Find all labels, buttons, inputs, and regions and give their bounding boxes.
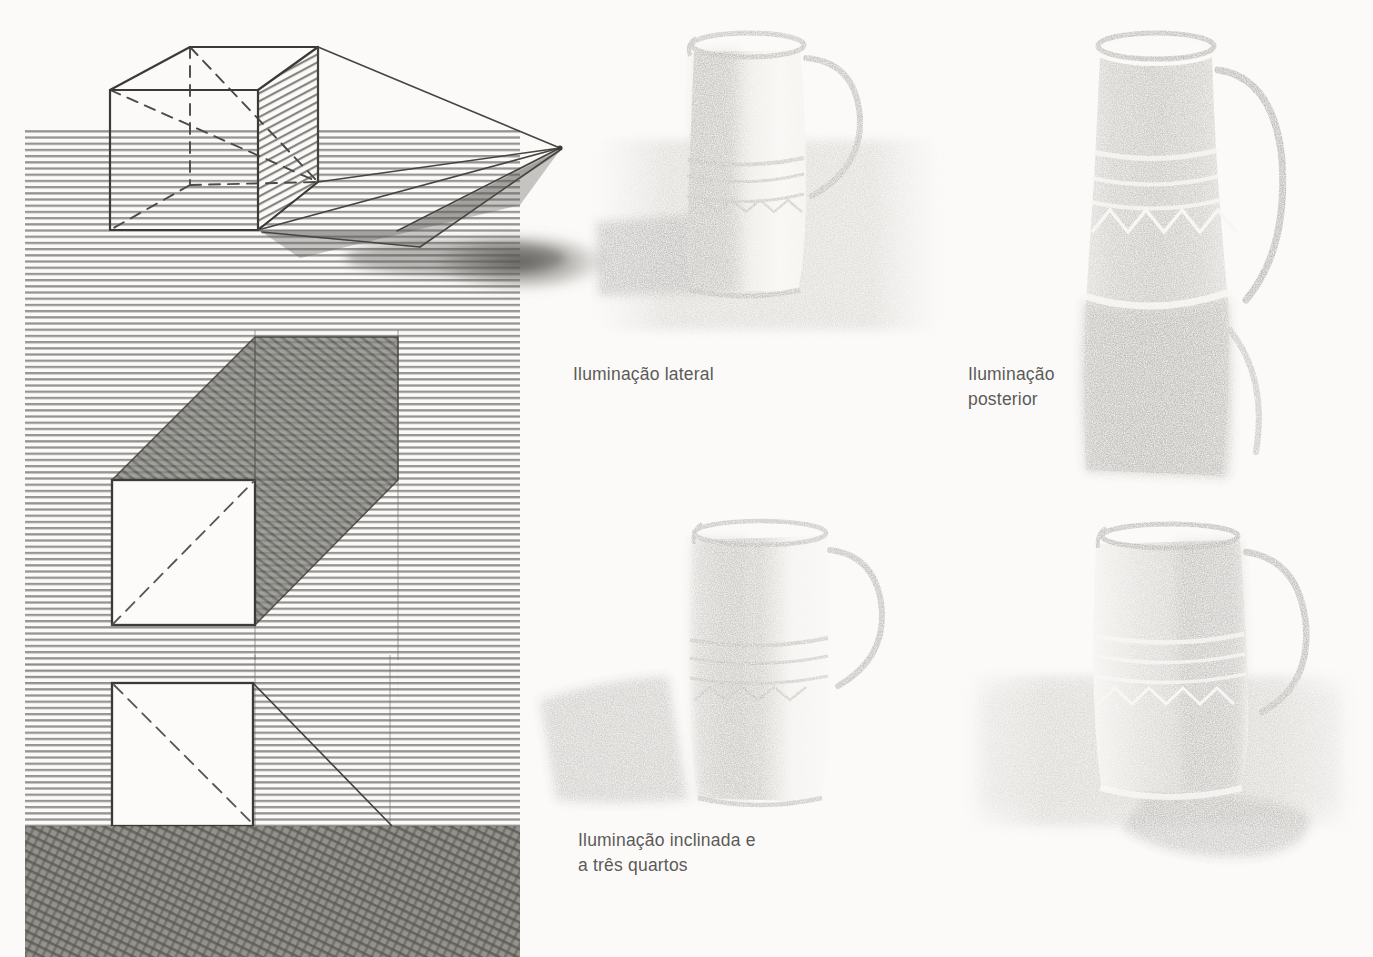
white-square-middle [112,480,255,625]
artwork-layer [0,0,1373,957]
jug-decor-band-posterior [1090,150,1221,209]
parallelogram-inner-edge [255,337,398,480]
jug-rim-lateral [692,33,804,57]
ground-hatch-middle [25,323,520,683]
cast-shadow-fourth [1122,790,1309,857]
pitcher-fourth [968,524,1350,857]
white-square-lower [112,683,253,826]
jug-body-inclinada [689,536,830,802]
construction-lines-lower [255,655,390,830]
jug-spout-lateral [689,38,696,56]
table-surface-fourth [968,676,1350,826]
table-surface-fourth-tone [980,690,1340,810]
drawing-page: Iluminação lateral Iluminação posterior … [0,0,1373,957]
jug-decor-band-inclinada [690,638,828,700]
jug-value-break-posterior [1084,292,1230,306]
jug-base-inclinada [698,798,822,805]
diagram-square-on-dark-ground [25,655,520,957]
caption-iluminacao-lateral: Iluminação lateral [573,362,714,387]
cube-cast-shadow-body [262,150,560,258]
jug-handle-inclinada [830,550,882,686]
pencil-smudge [432,232,608,292]
jug-dark-mass-posterior [1081,298,1232,478]
jug-body-fourth [1093,540,1248,794]
jug-handle-lower-posterior [1230,330,1259,452]
dark-foreground-band [25,826,520,957]
pitcher-inclinada [540,521,882,805]
jug-handle-fourth [1246,552,1306,712]
light-vanishing-point [557,145,562,150]
pencil-smudge-tail [345,241,565,275]
jug-handle-lateral [806,58,860,196]
jug-spout-inclinada [694,524,702,544]
jug-decor-band-lateral [686,158,804,212]
jug-triangle-motif-posterior [1092,210,1236,232]
cube-hatched-face [258,47,318,230]
cast-shadow-inclinada [540,676,688,803]
parallelogram-shadow-outline [112,337,398,625]
caption-iluminacao-posterior: Iluminação posterior [968,362,1055,412]
jug-spout-fourth [1098,528,1106,548]
construction-lines-middle [255,330,398,700]
table-surface-lateral [596,140,941,330]
ground-hatch-upper [25,127,520,323]
cast-shadow-lateral [596,214,714,296]
jug-body-posterior [1084,56,1229,476]
caption-iluminacao-inclinada-tres-quartos: Iluminação inclinada e a três quartos [578,828,756,878]
jug-decor-band-fourth [1094,634,1246,683]
parallelogram-shadow [112,337,398,625]
square-diagonal-dashed-middle [112,480,255,625]
pitcher-posterior [1081,33,1282,478]
jug-body-lateral [687,50,806,292]
jug-rim-inclinada [694,521,826,545]
jug-rim-posterior [1098,33,1214,59]
cube-visible-edges [110,47,318,230]
ground-hatch-lower [25,660,520,827]
jug-core-shadow-fourth [1176,540,1245,794]
projection-line-lower [253,683,392,826]
diagram-cube-perspective-shadow [25,47,608,323]
jug-rim-highlight-posterior [1098,37,1214,63]
pitcher-lateral [596,33,941,330]
dark-band-tone [25,826,520,957]
jug-handle-posterior [1218,70,1283,300]
jug-rim-fourth [1102,524,1238,548]
diagram-square-with-parallelogram-shadow [25,323,520,700]
jug-core-shadow-inclinada [691,538,752,800]
cube-hidden-edges [110,47,318,230]
jug-base-fourth [1100,788,1242,797]
jug-triangle-motif-fourth [1098,688,1234,704]
parallelogram-shadow-overlay [112,337,398,625]
square-diagonal-dashed-lower [114,685,253,824]
jug-base-lateral [690,290,800,296]
cube-cast-shadow [260,148,560,246]
light-rays [258,47,560,247]
jug-core-shadow-lateral [690,50,740,292]
